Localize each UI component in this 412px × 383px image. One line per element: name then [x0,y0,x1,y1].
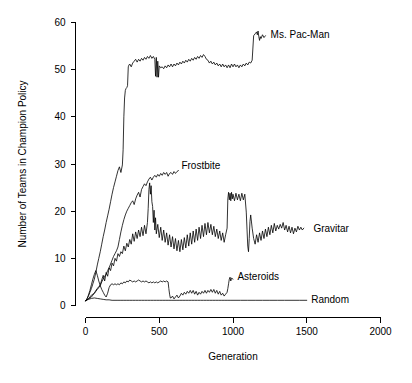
series-label: Random [311,294,349,305]
x-tick-label: 1000 [222,326,245,337]
y-tick-label: 40 [54,111,66,122]
series-line [86,183,304,301]
x-tick-label: 1500 [296,326,319,337]
x-tick-label: 0 [83,326,89,337]
y-tick-label: 20 [54,206,66,217]
chart-container: 0102030405060 0500100015002000 Ms. Pac-M… [0,0,412,383]
x-tick-label: 2000 [369,326,392,337]
x-tick-label: 500 [151,326,168,337]
y-tick-label: 50 [54,64,66,75]
y-tick-label: 30 [54,159,66,170]
y-axis: 0102030405060 [54,17,75,311]
series-label: Gravitar [313,223,349,234]
x-axis: 0500100015002000 [83,318,392,337]
series-line [86,31,266,301]
series-labels: Ms. Pac-ManFrostbiteGravitarAsteroidsRan… [181,29,349,306]
series-line [86,298,307,301]
series-label: Frostbite [181,160,220,171]
line-chart: 0102030405060 0500100015002000 Ms. Pac-M… [0,0,412,383]
x-axis-title: Generation [208,351,257,362]
series-label: Ms. Pac-Man [271,29,330,40]
y-tick-label: 0 [60,300,66,311]
series-label: Asteroids [237,271,279,282]
y-tick-label: 10 [54,253,66,264]
y-tick-label: 60 [54,17,66,28]
y-axis-title: Number of Teams in Champion Policy [17,80,28,247]
